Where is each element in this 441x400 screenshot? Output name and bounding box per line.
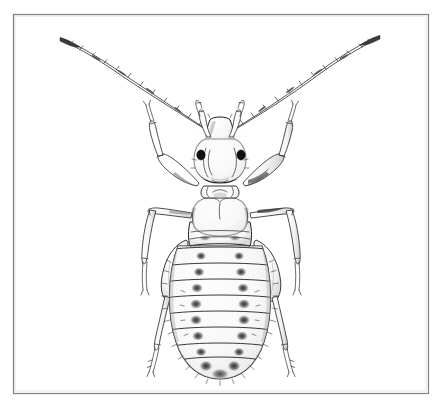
eye-left xyxy=(197,150,205,160)
thorax xyxy=(188,196,252,248)
insect-illustration-svg: Dorsal-view line drawing of a wingless l… xyxy=(0,0,441,400)
illustration-figure: Dorsal-view line drawing of a wingless l… xyxy=(0,0,441,400)
eye-right xyxy=(237,150,245,160)
cervical-region xyxy=(201,186,239,198)
